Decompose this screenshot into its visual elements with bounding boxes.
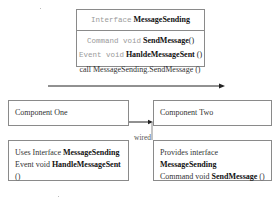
event-suffix: () <box>15 172 20 181</box>
method-suffix: () <box>189 36 194 45</box>
interface-header: Interface MessageSending <box>77 10 204 31</box>
interface-method: Command void SendMessage() <box>77 34 204 48</box>
method-name: HanldeMessageSent <box>126 50 195 59</box>
wire-label: wired <box>134 133 151 142</box>
uses-interface-box: Uses Interface MessageSending Event void… <box>8 140 129 181</box>
uses-prefix: Uses Interface <box>15 148 61 157</box>
component-one-label: Component One <box>15 108 68 117</box>
interface-keyword: Interface <box>91 16 132 24</box>
event-prefix: Event void <box>15 160 50 169</box>
event-name: HandleMessageSent <box>52 160 121 169</box>
interface-box: Interface MessageSending Command void Se… <box>76 9 205 67</box>
method-prefix: Command void <box>87 37 141 45</box>
component-one-box: Component One <box>8 100 129 126</box>
provides-prefix: Provides interface <box>160 148 218 157</box>
uses-line-1: Uses Interface MessageSending <box>15 147 128 159</box>
command-prefix: Command void <box>160 172 210 181</box>
method-suffix: () <box>197 50 202 59</box>
command-suffix: () <box>259 172 264 181</box>
interface-name: MessageSending <box>134 15 190 24</box>
provides-line-2: Command void SendMessage () <box>160 171 271 183</box>
speck <box>40 8 41 9</box>
method-prefix: Event void <box>79 51 124 59</box>
provides-interface-name: MessageSending <box>160 160 216 169</box>
provides-interface-box: Provides interface MessageSending Comman… <box>153 140 272 181</box>
command-name: SendMessage <box>212 172 258 181</box>
component-two-label: Component Two <box>160 108 213 117</box>
call-arrow-head-icon <box>219 84 225 89</box>
uses-interface-name: MessageSending <box>63 148 119 157</box>
interface-method: Event void HanldeMessageSent () <box>77 48 204 62</box>
uses-line-2: Event void HandleMessageSent () <box>15 159 128 183</box>
provides-line-1: Provides interface MessageSending <box>160 147 271 171</box>
method-name: SendMessage <box>143 36 189 45</box>
component-two-box: Component Two <box>153 100 272 126</box>
interface-methods: Command void SendMessage() Event void Ha… <box>77 34 204 62</box>
speck <box>58 196 59 197</box>
call-label: call MessageSending.SendMessage () <box>40 65 240 74</box>
